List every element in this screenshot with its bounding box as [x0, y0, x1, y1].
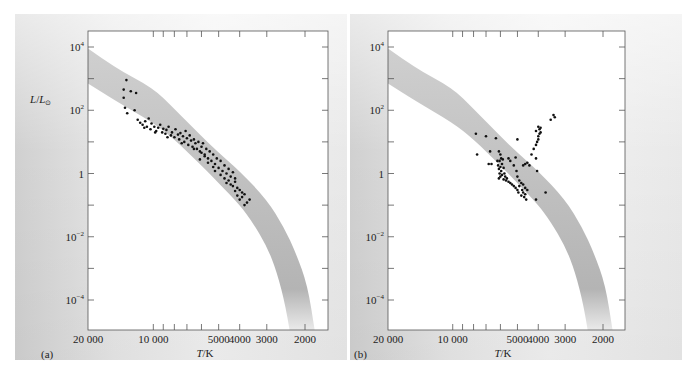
data-point: [214, 163, 217, 166]
data-point: [248, 198, 251, 201]
x-axis-label: T/K: [494, 347, 511, 359]
x-tick-label: 10 000: [438, 333, 469, 345]
data-point: [203, 155, 206, 158]
data-point: [146, 126, 149, 129]
data-point: [485, 135, 488, 138]
data-point: [143, 126, 146, 129]
data-point: [153, 126, 156, 129]
data-point: [236, 194, 239, 197]
data-point: [164, 133, 167, 136]
data-point: [229, 183, 232, 186]
data-point: [535, 130, 538, 133]
data-point: [246, 201, 249, 204]
data-point: [539, 126, 542, 129]
data-point: [214, 170, 217, 173]
data-point: [197, 141, 200, 144]
data-point: [162, 128, 165, 131]
data-point: [521, 189, 524, 192]
data-point: [200, 146, 203, 149]
data-point: [208, 150, 211, 153]
data-point: [219, 160, 222, 163]
data-point: [219, 174, 222, 177]
data-point: [243, 193, 246, 196]
data-point: [503, 172, 506, 175]
data-point: [223, 164, 226, 167]
data-point: [232, 185, 235, 188]
x-tick-label: 4000: [527, 333, 550, 345]
data-point: [502, 167, 505, 170]
data-point: [177, 133, 180, 136]
data-point: [536, 170, 539, 173]
x-tick-label: 3000: [256, 333, 279, 345]
data-point: [243, 204, 246, 207]
data-point: [509, 160, 512, 163]
data-point: [241, 196, 244, 199]
data-point: [135, 92, 138, 95]
data-point: [130, 90, 133, 93]
data-point: [232, 171, 235, 174]
data-point: [159, 123, 162, 126]
data-point: [139, 122, 142, 125]
data-point: [167, 126, 170, 129]
x-tick-label: 20 000: [73, 333, 104, 345]
data-point: [525, 198, 528, 201]
data-point: [150, 122, 153, 125]
data-point: [518, 179, 521, 182]
data-point: [157, 126, 160, 129]
data-point: [490, 163, 493, 166]
data-point: [174, 128, 177, 131]
panel-label-b: (b): [354, 348, 367, 361]
data-point: [528, 164, 531, 167]
data-point: [173, 136, 176, 139]
data-point: [207, 157, 210, 160]
data-point: [166, 136, 169, 139]
data-point: [514, 187, 517, 190]
data-point: [183, 141, 186, 144]
data-point: [165, 129, 168, 132]
data-point: [227, 168, 230, 171]
data-point: [549, 119, 552, 122]
y-tick-label: 10−2: [66, 230, 85, 243]
data-point: [515, 170, 518, 173]
data-point: [202, 142, 205, 145]
data-point: [506, 177, 509, 180]
data-point: [225, 182, 228, 185]
data-point: [522, 191, 525, 194]
data-point: [487, 163, 490, 166]
data-point: [149, 128, 152, 131]
x-tick-label: 5000: [506, 333, 529, 345]
data-point: [161, 131, 164, 134]
data-point: [238, 189, 241, 192]
data-point: [234, 177, 237, 180]
data-point: [526, 189, 529, 192]
data-point: [170, 134, 173, 137]
data-point: [194, 142, 197, 145]
data-point: [507, 157, 510, 160]
data-point: [498, 172, 501, 175]
data-point: [537, 135, 540, 138]
data-point: [498, 150, 501, 153]
data-point: [536, 141, 539, 144]
data-point: [552, 114, 555, 117]
data-point: [147, 117, 150, 120]
data-point: [502, 178, 505, 181]
x-axis-label: T/K: [196, 347, 213, 359]
data-point: [223, 177, 226, 180]
data-point: [498, 168, 501, 171]
data-point: [234, 180, 237, 183]
data-point: [530, 153, 533, 156]
data-point: [125, 79, 128, 82]
data-point: [535, 144, 538, 147]
data-point: [184, 130, 187, 133]
y-tick-label: 10−2: [366, 230, 385, 243]
data-point: [196, 148, 199, 151]
data-point: [517, 191, 520, 194]
data-point: [516, 175, 519, 178]
data-point: [489, 150, 492, 153]
data-point: [216, 157, 219, 160]
data-point: [535, 157, 538, 160]
panel-a: 104102110−210−4 20 00010 000500040003000…: [29, 31, 328, 361]
data-point: [193, 138, 196, 141]
data-point: [475, 133, 478, 136]
data-point: [234, 190, 237, 193]
